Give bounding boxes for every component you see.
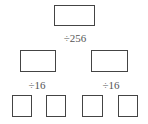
right-division-label: ÷16	[96, 79, 126, 91]
bottom-box-3	[82, 95, 103, 117]
left-division-label: ÷16	[22, 79, 52, 91]
bottom-box-2	[46, 95, 66, 117]
bottom-box-4	[118, 95, 138, 117]
middle-box-right	[91, 50, 128, 72]
top-box	[54, 5, 95, 26]
middle-box-left	[20, 50, 56, 72]
bottom-box-1	[12, 95, 32, 117]
top-division-label: ÷256	[55, 32, 95, 44]
